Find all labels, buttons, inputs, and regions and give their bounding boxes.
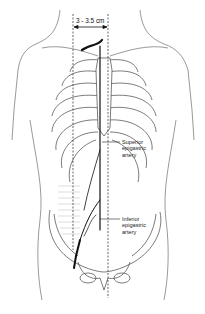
label-inferior-epigastric-artery: Inferior epigastric artery [122,216,146,235]
measurement-arrow [74,26,107,29]
reference-lines [73,14,108,298]
leader-lines [100,142,120,219]
shaded-region [58,186,80,234]
anatomy-diagram: 3 - 3.5 cm Superior epigastric artery In… [0,0,205,314]
sternum [96,58,112,136]
torso-illustration [0,0,205,314]
measurement-label: 3 - 3.5 cm [76,17,104,24]
label-superior-epigastric-artery: Superior epigastric artery [122,139,146,158]
